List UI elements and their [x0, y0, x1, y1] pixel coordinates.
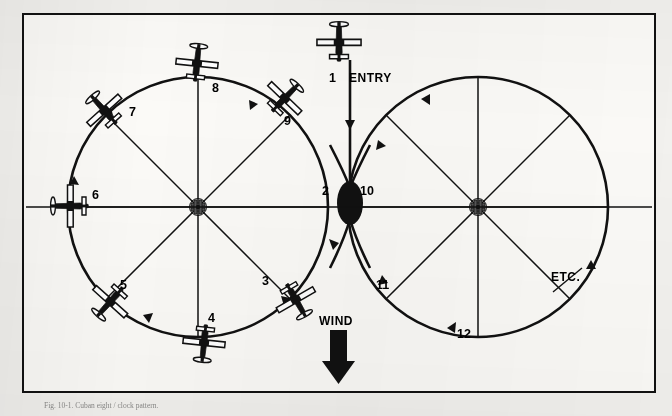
- wind-arrow-icon: [322, 330, 355, 384]
- position-label-11: 11: [376, 279, 389, 292]
- position-label-9: 9: [284, 115, 291, 128]
- right-circle-direction-arrows: [376, 94, 596, 333]
- position-label-5: 5: [120, 279, 127, 292]
- position-label-2: 2: [322, 185, 329, 198]
- figure-caption: Fig. 10-1. Cuban eight / clock pattern.: [44, 401, 158, 410]
- etc-label: ETC.: [551, 271, 580, 283]
- wind-label: WIND: [319, 315, 353, 327]
- position-label-12: 12: [457, 328, 471, 341]
- figure-page: 1 2 3 4 5 6 7 8 9 10 11 12 ENTRY WIND ET…: [0, 0, 672, 416]
- crossover-arrowhead: [329, 239, 339, 250]
- airplane-pos-5: [81, 274, 138, 330]
- crossover-curve-ul: [330, 145, 350, 188]
- position-label-10: 10: [360, 185, 374, 198]
- position-label-7: 7: [129, 106, 136, 119]
- entry-label: ENTRY: [349, 72, 392, 84]
- position-label-8: 8: [212, 82, 219, 95]
- position-label-6: 6: [92, 189, 99, 202]
- airplane-pos-4: [181, 322, 227, 364]
- position-label-3: 3: [262, 275, 269, 288]
- entry-arrowhead: [345, 120, 355, 130]
- flight-pattern-diagram: [0, 0, 672, 416]
- airplane-pos-3: [269, 273, 324, 327]
- airplane-entry: [317, 22, 361, 62]
- crossover-group: [329, 60, 370, 268]
- airplane-pos-7: [75, 82, 132, 138]
- position-label-1: 1: [329, 72, 336, 85]
- left-circle-direction-arrows: [70, 100, 290, 323]
- position-label-4: 4: [208, 312, 215, 325]
- airplane-pos-6: [51, 185, 89, 227]
